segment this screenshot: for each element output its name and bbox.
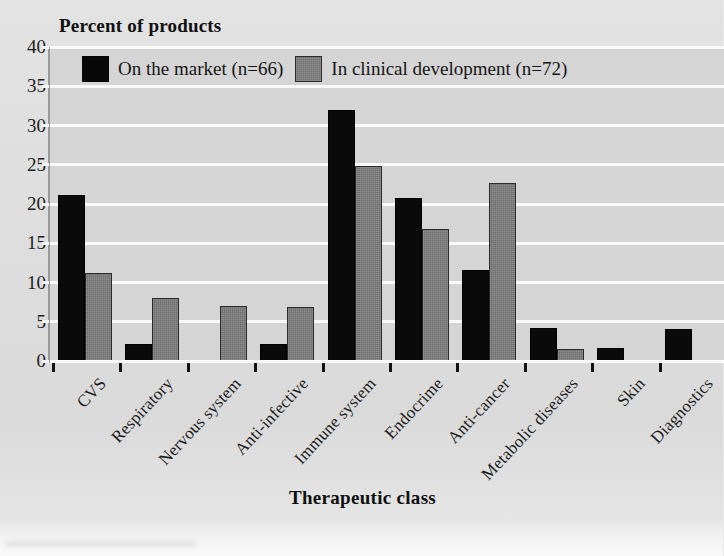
legend-label-clinical: In clinical development (n=72): [331, 58, 567, 80]
y-tick-mark: [42, 46, 49, 49]
x-tick-mark: [456, 363, 459, 372]
y-tick-mark: [42, 124, 49, 127]
x-tick-mark: [254, 363, 257, 372]
x-axis-line: [50, 360, 724, 363]
bar-market: [328, 110, 355, 361]
x-tick-mark: [119, 363, 122, 372]
legend-label-market: On the market (n=66): [118, 58, 283, 80]
bar-market: [530, 328, 557, 361]
plot-area: [50, 47, 724, 361]
x-tick-mark: [187, 363, 190, 372]
legend-swatch-clinical: [295, 56, 322, 82]
legend-swatch-market: [82, 56, 109, 82]
bar-clinical: [489, 183, 516, 361]
bar-clinical: [152, 298, 179, 361]
y-axis-ticks: 0510152025303540: [14, 8, 46, 515]
legend-item-market: On the market (n=66): [82, 56, 283, 82]
x-tick-label: Endocrime: [381, 374, 448, 444]
x-tick-mark: [389, 363, 392, 372]
bar-chart: Percent of products 0510152025303540 CVS…: [14, 8, 711, 515]
bars-container: [50, 47, 724, 361]
x-tick-label: Skin: [613, 374, 649, 411]
x-tick-label: Diagnostics: [646, 374, 717, 448]
x-tick-mark: [322, 363, 325, 372]
bar-clinical: [355, 166, 382, 361]
x-tick-label: CVS: [73, 374, 111, 412]
bar-clinical: [422, 229, 449, 361]
x-tick-label: Anti-cancer: [444, 374, 515, 448]
x-tick-mark: [659, 363, 662, 372]
y-axis-title: Percent of products: [59, 15, 221, 37]
legend-item-clinical: In clinical development (n=72): [295, 56, 567, 82]
bar-clinical: [287, 307, 314, 361]
bar-market: [125, 344, 152, 361]
scan-smudge: [6, 541, 196, 547]
scan-edge: [0, 520, 723, 556]
x-tick-mark: [52, 363, 55, 372]
bar-clinical: [220, 306, 247, 361]
legend: On the market (n=66) In clinical develop…: [82, 56, 567, 82]
bar-market: [395, 198, 422, 361]
y-tick-mark: [42, 85, 49, 88]
bar-market: [462, 270, 489, 361]
x-axis-title: Therapeutic class: [14, 487, 711, 509]
bar-market: [665, 329, 692, 361]
y-tick-mark: [42, 203, 49, 206]
x-tick-label: Respiratory: [108, 374, 178, 447]
x-tick-mark: [524, 363, 527, 372]
x-tick-mark: [591, 363, 594, 372]
y-tick-mark: [42, 242, 49, 245]
bar-market: [260, 344, 287, 361]
y-tick-mark: [42, 320, 49, 323]
y-tick-mark: [42, 281, 49, 284]
bar-clinical: [85, 273, 112, 361]
bar-market: [58, 195, 85, 361]
y-tick-mark: [42, 163, 49, 166]
y-tick-mark: [42, 360, 49, 363]
